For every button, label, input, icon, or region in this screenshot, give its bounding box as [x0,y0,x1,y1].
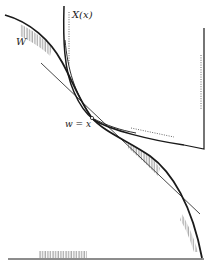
label-x-curve: X(x) [71,9,93,20]
right-boundary [184,28,204,149]
hatching [20,24,198,258]
label-w-curve: W [16,36,27,47]
w-curve [5,15,202,258]
label-tangent-point: w = x [65,119,91,129]
diagram-figure: X(x) W w = x [0,0,210,268]
hatch-region-baseline [39,251,87,258]
